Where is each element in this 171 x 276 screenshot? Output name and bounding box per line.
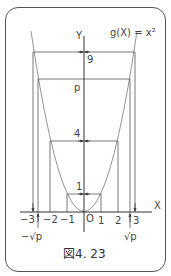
figure-caption: 図4. 23 [63,248,106,260]
origin-label: O [86,214,94,224]
y-tick-9: 9 [87,55,93,65]
x-tick-neg1: −1 [60,215,75,225]
x-label-pos-sqrt-p: √p [124,232,137,242]
function-label: g(X) = x² [110,28,156,38]
y-tick-4: 4 [74,129,80,139]
x-tick-3: 3 [133,216,139,226]
x-axis-label: X [154,201,161,211]
x-label-neg-sqrt-p: −√p [21,232,42,242]
x-tick-2: 2 [115,216,121,226]
y-tick-1: 1 [76,182,82,192]
x-tick-1: 1 [98,216,104,226]
x-tick-neg2: −2 [43,215,58,225]
y-axis-label: Y [76,31,82,41]
y-tick-p: p [74,83,80,93]
x-tick-neg3: −3 [20,215,35,225]
